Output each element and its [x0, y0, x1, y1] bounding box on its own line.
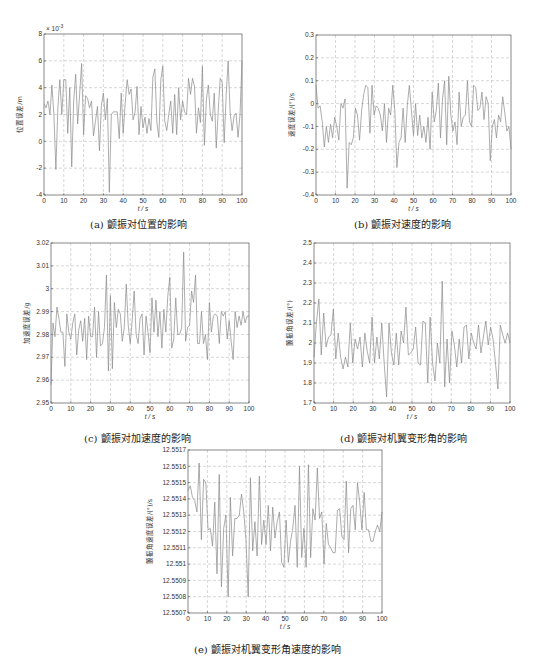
caption-c: (c) 颤振对加速度的影响 [84, 430, 191, 445]
y-tick-label: 1.8 [303, 379, 312, 386]
x-tick-label: 80 [340, 615, 348, 622]
x-axis-label: t / s [145, 413, 156, 420]
x-tick-label: 80 [468, 197, 476, 204]
y-tick-label: 0 [310, 100, 314, 107]
x-tick-label: 90 [487, 405, 495, 412]
y-tick-label: 0.2 [305, 54, 314, 61]
y-tick-label: 2.96 [36, 376, 49, 383]
x-tick-label: 70 [179, 197, 187, 204]
y-tick-label: 4 [38, 84, 42, 91]
x-tick-label: 60 [301, 615, 309, 622]
y-tick-label: 0.1 [305, 77, 314, 84]
x-tick-label: 20 [350, 405, 358, 412]
chart-position-error: 0102030405060708090100-4-202468× 10-3t /… [0, 0, 270, 230]
x-tick-label: 10 [67, 405, 75, 412]
y-tick-label: 12.5513 [163, 511, 187, 518]
x-tick-label: 100 [377, 615, 388, 622]
y-tick-label: -0.2 [303, 145, 315, 152]
y-tick-label: 3.02 [36, 239, 49, 246]
x-tick-label: 70 [320, 615, 328, 622]
x-tick-label: 80 [206, 405, 214, 412]
x-tick-label: 30 [100, 197, 108, 204]
x-tick-label: 0 [42, 197, 46, 204]
x-tick-label: 90 [219, 197, 227, 204]
x-tick-label: 70 [186, 405, 194, 412]
x-tick-label: 20 [223, 615, 231, 622]
x-tick-label: 70 [448, 405, 456, 412]
chart-d-svg: 01020304050607080901001.71.81.922.12.22.… [270, 225, 541, 450]
x-tick-label: 0 [312, 405, 316, 412]
y-multiplier: × 10-3 [46, 23, 64, 32]
x-tick-label: 30 [243, 615, 251, 622]
x-tick-label: 40 [262, 615, 270, 622]
x-tick-label: 60 [166, 405, 174, 412]
caption-d: (d) 颤振对机翼变形角的影响 [340, 430, 467, 445]
chart-acceleration-error: 01020304050607080901002.952.962.972.982.… [0, 225, 270, 450]
x-tick-label: 60 [429, 197, 437, 204]
x-tick-label: 50 [146, 405, 154, 412]
x-tick-label: 100 [505, 405, 516, 412]
y-tick-label: 0 [38, 138, 42, 145]
x-axis-label: t / s [408, 205, 419, 212]
y-tick-label: 12.5512 [163, 528, 187, 535]
chart-c-svg: 01020304050607080901002.952.962.972.982.… [0, 225, 270, 450]
x-tick-label: 10 [60, 197, 68, 204]
x-tick-label: 100 [244, 405, 255, 412]
y-tick-label: 2.2 [303, 299, 312, 306]
x-axis-label: t / s [280, 623, 291, 630]
chart-flutter-angular-rate-error: 010203040506070809010012.550712.550812.5… [130, 445, 410, 672]
y-tick-label: 1.9 [303, 359, 312, 366]
y-tick-label: -0.4 [303, 191, 315, 198]
x-tick-label: 90 [488, 197, 496, 204]
x-tick-label: 70 [449, 197, 457, 204]
x-tick-label: 30 [107, 405, 115, 412]
y-tick-label: 2.5 [303, 239, 312, 246]
x-tick-label: 0 [186, 615, 190, 622]
y-axis-label: 加速度误差/g [22, 302, 31, 343]
chart-flutter-angle-error: 01020304050607080901001.71.81.922.12.22.… [270, 225, 541, 450]
y-tick-label: 6 [38, 57, 42, 64]
x-tick-label: 20 [80, 197, 88, 204]
y-tick-label: 2.1 [303, 319, 312, 326]
x-tick-label: 40 [390, 197, 398, 204]
x-tick-label: 30 [371, 197, 379, 204]
y-tick-label: 3 [45, 285, 49, 292]
x-tick-label: 20 [87, 405, 95, 412]
x-tick-label: 0 [49, 405, 53, 412]
y-tick-label: -2 [36, 164, 42, 171]
x-tick-label: 100 [237, 197, 248, 204]
x-tick-label: 10 [330, 405, 338, 412]
chart-a-svg: 0102030405060708090100-4-202468× 10-3t /… [0, 0, 270, 230]
x-tick-label: 80 [199, 197, 207, 204]
y-tick-label: 8 [38, 30, 42, 37]
chart-velocity-error: 0102030405060708090100-0.4-0.3-0.2-0.100… [270, 0, 541, 230]
y-axis-label: 颤振角误差/(°) [285, 300, 294, 346]
x-tick-label: 60 [159, 197, 167, 204]
y-tick-label: -0.1 [303, 123, 315, 130]
x-tick-label: 90 [226, 405, 234, 412]
y-tick-label: 2.99 [36, 308, 49, 315]
y-tick-label: 12.5508 [163, 593, 187, 600]
x-tick-label: 10 [204, 615, 212, 622]
y-tick-label: 0.3 [305, 31, 314, 38]
y-tick-label: 12.5516 [163, 463, 187, 470]
y-tick-label: -0.3 [303, 168, 315, 175]
y-tick-label: 2.97 [36, 353, 49, 360]
x-tick-label: 30 [369, 405, 377, 412]
x-tick-label: 40 [127, 405, 135, 412]
y-tick-label: 12.5517 [163, 446, 187, 453]
y-tick-label: 12.5511 [163, 544, 186, 551]
x-tick-label: 50 [408, 405, 416, 412]
x-axis-label: t / s [407, 413, 418, 420]
caption-e: (e) 颤振对机翼变形角速度的影响 [194, 641, 341, 656]
x-tick-label: 60 [428, 405, 436, 412]
y-axis-label: 速度误差/(°)/s [287, 92, 296, 137]
x-tick-label: 50 [410, 197, 418, 204]
y-tick-label: 2.98 [36, 331, 49, 338]
x-tick-label: 10 [332, 197, 340, 204]
x-tick-label: 40 [389, 405, 397, 412]
y-tick-label: 2 [38, 111, 42, 118]
y-tick-label: 12.5507 [163, 609, 187, 616]
chart-e-svg: 010203040506070809010012.550712.550812.5… [130, 445, 410, 672]
x-tick-label: 80 [467, 405, 475, 412]
